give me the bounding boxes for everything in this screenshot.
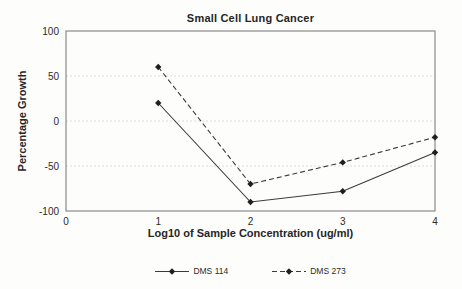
legend-label: DMS 114 bbox=[193, 266, 228, 276]
legend-line-sample-solid bbox=[155, 267, 189, 276]
x-tick-label: 2 bbox=[248, 216, 254, 227]
diamond-marker-icon bbox=[169, 268, 175, 274]
y-tick-label: 100 bbox=[42, 26, 59, 37]
y-tick-label: 50 bbox=[48, 71, 60, 82]
x-tick-label: 0 bbox=[63, 216, 69, 227]
legend: DMS 114 DMS 273 bbox=[66, 263, 435, 279]
y-tick-label: -50 bbox=[45, 161, 60, 172]
diamond-marker-icon bbox=[286, 268, 292, 274]
data-point-marker-dms-114 bbox=[432, 149, 438, 155]
x-axis-title: Log10 of Sample Concentration (ug/ml) bbox=[66, 227, 435, 239]
x-tick-label: 4 bbox=[432, 216, 438, 227]
y-tick-label: -100 bbox=[39, 206, 59, 217]
data-point-marker-dms-273 bbox=[432, 134, 438, 140]
data-point-marker-dms-114 bbox=[340, 188, 346, 194]
legend-item-dms-273: DMS 273 bbox=[272, 266, 345, 276]
series-line-dms-114 bbox=[158, 103, 435, 202]
x-tick-label: 3 bbox=[340, 216, 346, 227]
x-tick-label: 1 bbox=[155, 216, 161, 227]
legend-item-dms-114: DMS 114 bbox=[155, 266, 228, 276]
figure: Small Cell Lung Cancer Percentage Growth… bbox=[0, 0, 462, 289]
legend-line-sample-dashed bbox=[272, 267, 306, 276]
data-point-marker-dms-273 bbox=[340, 159, 346, 165]
chart-plot: 100500-50-10001234 bbox=[0, 0, 462, 289]
y-tick-label: 0 bbox=[53, 116, 59, 127]
legend-label: DMS 273 bbox=[310, 266, 345, 276]
